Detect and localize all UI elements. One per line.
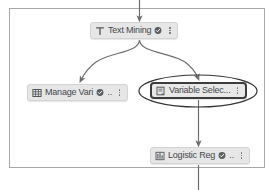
label-ellipsis: .. [107,88,112,97]
node-label: Manage Vari [45,88,93,97]
kebab-menu-icon[interactable] [238,150,245,162]
node-manage-variables[interactable]: Manage Vari .. [27,84,128,101]
label-ellipsis: .. [229,151,234,160]
node-label: Text Mining [108,26,151,35]
kebab-menu-icon[interactable] [166,25,173,37]
node-logistic-regression[interactable]: Logistic Reg .. [150,147,250,164]
table-grid-icon [32,88,42,98]
text-t-icon [95,26,105,36]
check-circle-icon [218,152,226,160]
check-circle-icon [154,27,162,35]
check-circle-icon [96,89,104,97]
bar-chart-icon [155,151,165,161]
node-label: Logistic Reg [168,151,215,160]
node-variable-selection[interactable]: Variable Selec... [150,82,247,99]
node-text-mining[interactable]: Text Mining [90,22,178,39]
form-document-icon [156,86,166,96]
node-label: Variable Selec... [169,86,230,95]
workflow-canvas[interactable]: Text Mining Manage Vari .. [0,0,279,190]
kebab-menu-icon[interactable] [234,85,241,97]
kebab-menu-icon[interactable] [116,87,123,99]
